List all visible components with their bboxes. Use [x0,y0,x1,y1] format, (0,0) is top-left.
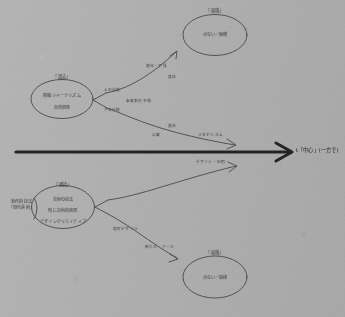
node-source-lower-line-2: 時に芸術的表現 [48,208,77,214]
lower-branch-falling-arrowhead [169,254,178,262]
label-upper-fork-top: 上の分岐 [104,88,121,93]
upper-branch-rising-curve [106,52,176,93]
node-source-upper-title: 「過去」 [53,74,71,80]
node-outcome-lower-title: 「面積」 [206,250,224,256]
ink-strokes-layer [0,0,345,317]
label-lower-fall-outer: 新たな・ケース [145,245,174,250]
upper-fork-lower-stroke [93,100,107,108]
node-source-lower-side-note: 制作的技法 「現代美術」 [9,199,34,211]
lower-fork-upper-stroke [95,200,108,207]
upper-branch-rising-arrowhead [170,51,177,59]
upper-fork-upper-stroke [93,93,106,100]
label-upper-fall-arrow: メタボリズム [198,133,223,138]
node-source-lower-line-3: デザインクリエイティブ [40,219,86,225]
node-outcome-upper-title: 「面積」 [206,8,224,14]
label-upper-fork-bottom: 下の分岐 [104,108,121,113]
node-source-upper-line-1: 情報ジャーナリズム [43,93,80,99]
label-lower-rise-arrow: デザイン・応用 [196,160,225,165]
label-upper-fork-middle: 未来表の予測 [126,99,151,104]
label-upper-rise-inner: 変化・予見 [146,64,167,69]
node-source-lower-title: 「構造」 [54,182,72,188]
node-outcome-lower-line-1: 点ない／曲線 [203,275,228,281]
node-source-upper-ellipse [31,80,93,119]
lower-branch-rising-curve [108,166,236,200]
diagram-sheet: 「面積」 点ない／面積 「過去」 情報ジャーナリズム 自然現象 上の分岐 下の分… [0,0,345,317]
node-source-lower-line-1: 芸術の技法 [53,197,74,203]
lower-fork-lower-stroke [95,207,108,214]
node-source-upper-line-2: 自然現象 [54,105,71,111]
node-outcome-upper-line-1: 点ない／面積 [203,32,228,38]
label-upper-fall-inner: 変化 [168,124,176,129]
label-upper-rise-outer: 変化 [168,75,176,80]
lower-branch-falling-curve [108,214,177,258]
label-lower-fall-inner: 造形デザイン [113,227,138,232]
time-axis-label: t「中心」(一方で) [296,147,339,155]
label-upper-fall-outer: 公算 [152,133,160,138]
